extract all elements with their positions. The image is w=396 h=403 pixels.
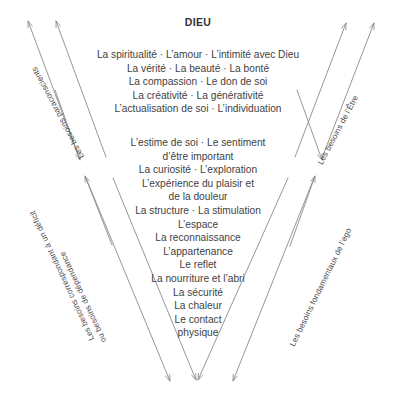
tier-line: d’être important: [0, 150, 396, 164]
tier-line: de la douleur: [0, 190, 396, 204]
tier-line: La créativité · La générativité: [0, 89, 396, 103]
tier-line: physique: [0, 326, 396, 340]
tier-line: La vérité · La beauté · La bonté: [0, 62, 396, 76]
tier-line: L’expérience du plaisir et: [0, 177, 396, 191]
inverted-pyramid-needs-diagram: DIEU La spiritualité · L’amour · L’intim…: [0, 0, 396, 403]
tier-line: Le contact: [0, 313, 396, 327]
tier-line: L’espace: [0, 218, 396, 232]
tier-line: La spiritualité · L’amour · L’intimité a…: [0, 48, 396, 62]
tier-line: La structure · La stimulation: [0, 204, 396, 218]
tier-line: La chaleur: [0, 299, 396, 313]
tier-line: La compassion · Le don de soi: [0, 75, 396, 89]
page-title: DIEU: [0, 16, 396, 28]
tier-line: La sécurité: [0, 286, 396, 300]
tier-ego-needs: L’estime de soi · Le sentiment d’être im…: [0, 136, 396, 340]
tier-line: La curiosité · L’exploration: [0, 163, 396, 177]
